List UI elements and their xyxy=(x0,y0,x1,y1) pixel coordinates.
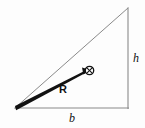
triangle-outline xyxy=(15,8,129,109)
height-label: h xyxy=(133,52,139,64)
figure-canvas: h b R xyxy=(0,0,145,128)
base-label: b xyxy=(69,112,75,124)
hypotenuse-side-line xyxy=(15,8,128,108)
circled-cross-icon xyxy=(85,66,93,74)
geometry-diagram-svg xyxy=(0,0,145,128)
vector-label: R xyxy=(59,84,67,95)
